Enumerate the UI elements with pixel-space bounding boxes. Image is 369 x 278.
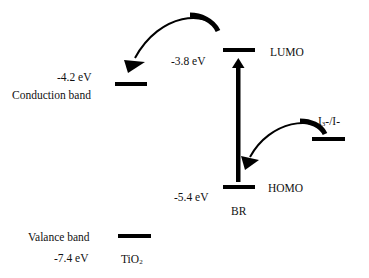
lumo-energy: -3.8 eV	[171, 56, 206, 68]
homo-energy: -5.4 eV	[174, 192, 209, 204]
conduction-band-label: Conduction band	[12, 90, 91, 102]
tio2-label: TiO2	[121, 254, 143, 266]
homo-level	[223, 185, 255, 189]
energy-level-diagram: -4.2 eV Conduction band -3.8 eV LUMO I3-…	[0, 0, 369, 278]
lumo-level	[223, 48, 255, 52]
redox-label: I3-/I-	[318, 116, 340, 128]
redox-level	[312, 137, 345, 141]
excitation-arrow	[232, 58, 245, 182]
lumo-label: LUMO	[270, 47, 304, 59]
conduction-band-energy: -4.2 eV	[57, 72, 92, 84]
conduction-band-level	[115, 82, 147, 86]
tio2-label-sub: 2	[139, 258, 143, 266]
tio2-label-main: TiO	[121, 253, 139, 265]
valence-band-energy: -7.4 eV	[54, 253, 89, 265]
valence-band-label: Valance band	[28, 232, 90, 244]
br-label: BR	[231, 206, 246, 218]
homo-label: HOMO	[268, 183, 303, 195]
regeneration-arrow	[241, 121, 325, 170]
redox-label-rest: -/I-	[325, 115, 340, 127]
valence-band-level	[118, 234, 151, 238]
